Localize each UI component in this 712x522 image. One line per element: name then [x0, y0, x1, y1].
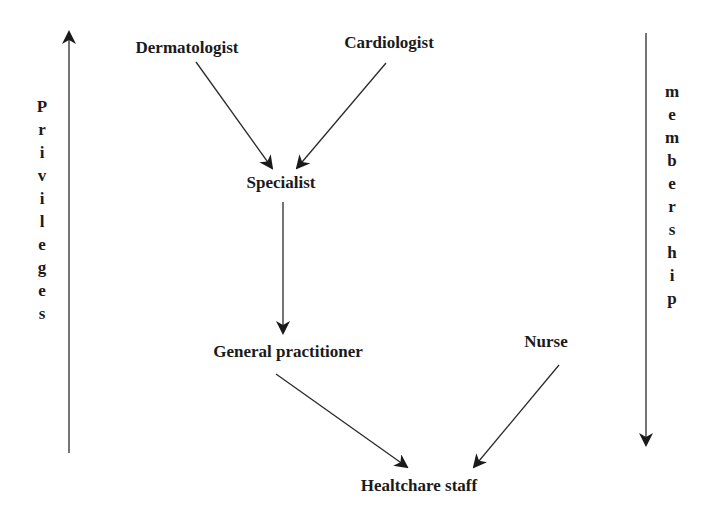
membership-letter: s: [662, 218, 682, 241]
role-hierarchy-diagram: Dermatologist Cardiologist Specialist Ge…: [0, 0, 712, 522]
edge-nurse-to-healthcare_staff: [474, 365, 559, 467]
privileges-axis-label: Privileges: [32, 95, 52, 325]
membership-letter: e: [662, 103, 682, 126]
edge-cardiologist-to-specialist: [297, 63, 386, 168]
membership-axis-label: membership: [662, 80, 682, 310]
node-general-practitioner: General practitioner: [213, 342, 363, 362]
diagram-connectors: [0, 0, 712, 522]
node-dermatologist: Dermatologist: [136, 38, 239, 58]
membership-letter: b: [662, 149, 682, 172]
privileges-letter: v: [32, 164, 52, 187]
privileges-letter: s: [32, 302, 52, 325]
membership-letter: i: [662, 264, 682, 287]
membership-letter: p: [662, 287, 682, 310]
node-nurse: Nurse: [524, 332, 567, 352]
membership-letter: h: [662, 241, 682, 264]
edge-group: [196, 62, 559, 467]
node-specialist: Specialist: [247, 173, 316, 193]
privileges-letter: l: [32, 210, 52, 233]
axis-group: [69, 32, 646, 453]
privileges-letter: g: [32, 256, 52, 279]
edge-dermatologist-to-specialist: [196, 62, 272, 168]
node-cardiologist: Cardiologist: [344, 33, 434, 53]
privileges-letter: e: [32, 233, 52, 256]
membership-letter: e: [662, 172, 682, 195]
privileges-letter: e: [32, 279, 52, 302]
membership-letter: m: [662, 80, 682, 103]
edge-general_practitioner-to-healthcare_staff: [276, 374, 407, 467]
privileges-letter: i: [32, 141, 52, 164]
membership-letter: r: [662, 195, 682, 218]
privileges-letter: i: [32, 187, 52, 210]
membership-letter: m: [662, 126, 682, 149]
node-healthcare-staff: Healtchare staff: [361, 476, 477, 496]
privileges-letter: r: [32, 118, 52, 141]
privileges-letter: P: [32, 95, 52, 118]
